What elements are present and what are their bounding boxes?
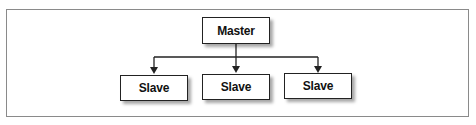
master-label: Master [217,24,254,38]
arrow-head-icon [232,66,240,73]
slave-label: Slave [139,81,169,95]
arrow-head-icon [150,67,158,74]
arrow-head-icon [314,66,322,73]
slave-node-3: Slave [284,73,352,99]
master-node: Master [202,17,270,44]
slave-node-1: Slave [120,75,188,101]
slave-label: Slave [303,79,333,93]
slave-label: Slave [221,80,251,94]
slave-node-2: Slave [202,74,270,100]
